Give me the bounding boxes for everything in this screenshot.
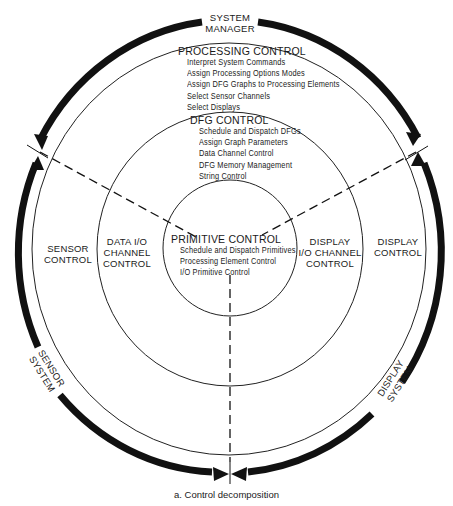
figure-caption: a. Control decomposition: [0, 489, 453, 500]
ring-segment-right: [402, 163, 441, 382]
dfg-control-items: Schedule and Dispatch DFGs Assign Graph …: [199, 126, 301, 182]
arrow-upper-left-down: [34, 134, 48, 150]
data-io-line-2: CHANNEL: [97, 247, 157, 258]
ring-segment-left: [18, 163, 38, 347]
ring-segment-bottom-left: [60, 395, 212, 472]
list-item: Select Sensor Channels: [187, 91, 340, 102]
system-manager-line-1: SYSTEM: [200, 12, 260, 23]
list-item: Interpret System Commands: [187, 57, 340, 68]
display-control-label: DISPLAY CONTROL: [370, 236, 426, 258]
data-io-line-3: CONTROL: [97, 258, 157, 269]
sensor-control-line-2: CONTROL: [38, 254, 98, 265]
list-item: String Control: [199, 171, 301, 182]
list-item: Select Displays: [187, 102, 340, 113]
processing-control-items: Interpret System Commands Assign Process…: [187, 57, 340, 113]
divider-upper-left: [40, 152, 198, 238]
system-manager-label: SYSTEM MANAGER: [200, 12, 260, 34]
tick-upper-left: [27, 145, 48, 158]
list-item: Assign Graph Parameters: [199, 137, 301, 148]
data-io-channel-control-label: DATA I/O CHANNEL CONTROL: [97, 236, 157, 269]
display-io-channel-control-label: DISPLAY I/O CHANNEL CONTROL: [298, 236, 362, 269]
list-item: Assign DFG Graphs to Processing Elements: [187, 79, 340, 90]
list-item: Assign Processing Options Modes: [187, 68, 340, 79]
sensor-control-line-1: SENSOR: [38, 243, 98, 254]
arrow-upper-right-down: [406, 132, 421, 146]
primitive-control-items: Schedule and Dispatch Primitives Process…: [180, 245, 296, 279]
list-item: Schedule and Dispatch DFGs: [199, 126, 301, 137]
display-io-line-3: CONTROL: [298, 258, 362, 269]
list-item: DFG Memory Management: [199, 160, 301, 171]
arrow-bottom-right: [231, 467, 247, 481]
list-item: Schedule and Dispatch Primitives: [180, 245, 296, 256]
list-item: Data Channel Control: [199, 148, 301, 159]
arrow-bottom-left: [213, 467, 229, 481]
display-io-line-2: I/O CHANNEL: [298, 247, 362, 258]
arrow-upper-left-up: [30, 156, 44, 170]
display-control-line-1: DISPLAY: [370, 236, 426, 247]
dfg-control-title: DFG CONTROL: [190, 114, 317, 126]
processing-control-block: PROCESSING CONTROL Interpret System Comm…: [178, 45, 365, 113]
dfg-control-block: DFG CONTROL Schedule and Dispatch DFGs A…: [190, 114, 317, 182]
processing-control-title: PROCESSING CONTROL: [178, 45, 365, 57]
sensor-control-label: SENSOR CONTROL: [38, 243, 98, 265]
list-item: Processing Element Control: [180, 256, 296, 267]
data-io-line-1: DATA I/O: [97, 236, 157, 247]
primitive-control-block: PRIMITIVE CONTROL Schedule and Dispatch …: [171, 233, 314, 279]
list-item: I/O Primitive Control: [180, 267, 296, 278]
primitive-control-title: PRIMITIVE CONTROL: [171, 233, 314, 245]
ring-segment-bottom-right: [248, 414, 372, 472]
display-io-line-1: DISPLAY: [298, 236, 362, 247]
display-control-line-2: CONTROL: [370, 247, 426, 258]
system-manager-line-2: MANAGER: [200, 23, 260, 34]
